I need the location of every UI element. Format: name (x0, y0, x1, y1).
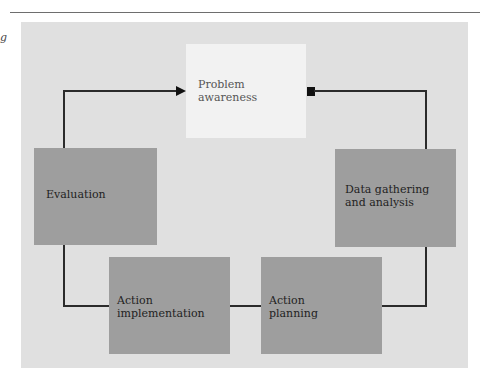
connector-data-up (425, 90, 427, 150)
node-action-implementation: Action implementation (109, 257, 230, 354)
node-label: Problem awareness (198, 78, 257, 104)
connector-evaluation-to-implementation (63, 305, 109, 307)
node-label: Action implementation (117, 294, 205, 320)
node-label: Data gathering and analysis (345, 183, 429, 209)
connector-to-problem (63, 90, 177, 92)
node-action-planning: Action planning (261, 257, 382, 354)
connector-planning-to-data (425, 246, 427, 307)
margin-text-fragment: g (0, 31, 7, 44)
connector-implementation-to-planning (228, 305, 262, 307)
node-problem-awareness: Problem awareness (186, 44, 306, 138)
node-evaluation: Evaluation (34, 148, 157, 245)
node-label: Action planning (269, 294, 318, 320)
node-data-gathering: Data gathering and analysis (335, 149, 456, 247)
top-rule (10, 12, 480, 13)
connector-data-to-problem (314, 90, 427, 92)
node-label: Evaluation (46, 188, 106, 201)
arrowhead-icon (176, 86, 186, 96)
connector-evaluation-down (63, 244, 65, 307)
connector-evaluation-up (63, 91, 65, 149)
connector-planning-right (381, 305, 427, 307)
